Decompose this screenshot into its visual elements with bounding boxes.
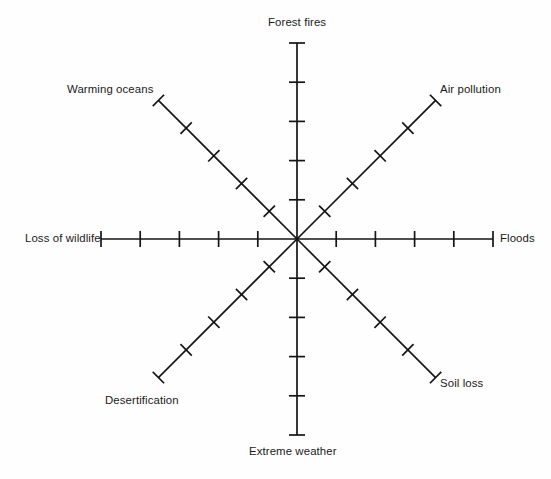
axis-air-pollution — [297, 95, 441, 239]
axes-group — [101, 43, 493, 435]
axis-extreme-weather — [289, 239, 305, 435]
axis-spoke-air-pollution — [297, 100, 436, 239]
axis-label-warming-oceans: Warming oceans — [67, 84, 153, 95]
axis-desertification — [153, 239, 297, 383]
axis-label-extreme-weather: Extreme weather — [249, 446, 337, 457]
axis-warming-oceans — [153, 95, 297, 239]
axis-label-forest-fires: Forest fires — [268, 17, 326, 28]
axis-floods — [297, 231, 493, 247]
axis-spoke-soil-loss — [297, 239, 436, 378]
axis-label-floods: Floods — [500, 233, 535, 244]
axis-label-soil-loss: Soil loss — [440, 378, 483, 389]
axis-forest-fires — [289, 43, 305, 239]
axis-spoke-warming-oceans — [158, 100, 297, 239]
radar-chart-figure: Forest fires Air pollution Floods Soil l… — [0, 0, 551, 479]
axis-label-air-pollution: Air pollution — [440, 84, 501, 95]
axis-label-loss-of-wildlife: Loss of wildlife — [25, 233, 101, 244]
axis-loss-of-wildlife — [101, 231, 297, 247]
axis-label-desertification: Desertification — [105, 395, 179, 406]
axis-spoke-desertification — [158, 239, 297, 378]
axis-soil-loss — [297, 239, 441, 383]
